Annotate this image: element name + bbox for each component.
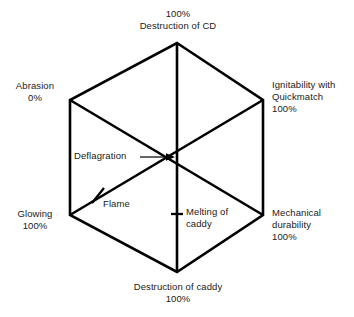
hexagon-diagram	[0, 0, 354, 317]
axis-label-ignitability: Ignitability with Quickmatch 100%	[272, 79, 354, 115]
axis-name-mechanical-durability-line2: durability	[272, 219, 336, 231]
axis-value-ignitability: 100%	[272, 103, 342, 115]
axis-label-destruction-of-caddy: Destruction of caddy 100%	[112, 281, 244, 305]
axis-name-destruction-of-caddy: Destruction of caddy	[112, 281, 244, 293]
axis-name-mechanical-durability-line1: Mechanical	[272, 207, 354, 219]
axis-value-mechanical-durability: 100%	[272, 231, 336, 243]
axis-name-ignitability-line1: Ignitability with	[272, 79, 354, 91]
annotation-flame: Flame	[103, 198, 130, 210]
axis-value-destruction-of-cd: 100%	[118, 8, 238, 20]
axis-value-destruction-of-caddy: 100%	[112, 293, 244, 305]
annotation-melting-of-caddy-line1: Melting of	[186, 206, 256, 218]
axis-label-mechanical-durability: Mechanical durability 100%	[272, 207, 354, 243]
axis-name-abrasion: Abrasion	[2, 80, 68, 92]
annotation-melting-of-caddy: Melting of caddy	[186, 206, 256, 230]
axis-label-destruction-of-cd: 100% Destruction of CD	[118, 8, 238, 32]
axis-name-glowing: Glowing	[2, 208, 68, 220]
axis-name-ignitability-line2: Quickmatch	[272, 91, 354, 103]
axis-name-destruction-of-cd: Destruction of CD	[118, 20, 238, 32]
axis-label-abrasion: Abrasion 0%	[2, 80, 68, 104]
annotation-deflagration: Deflagration	[74, 150, 126, 162]
axis-value-abrasion: 0%	[2, 92, 68, 104]
axis-label-glowing: Glowing 100%	[2, 208, 68, 232]
axis-value-glowing: 100%	[2, 220, 68, 232]
hexagon-radar-figure: 100% Destruction of CD Abrasion 0% Ignit…	[0, 0, 354, 317]
annotation-melting-of-caddy-line2: caddy	[186, 218, 256, 230]
